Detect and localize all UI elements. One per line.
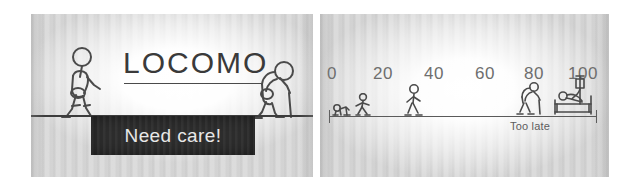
walking-child-figure	[353, 93, 373, 117]
too-late-caption: Too late	[510, 120, 550, 132]
walking-adult-figure	[53, 46, 109, 122]
axis-tick-label-80: 80	[524, 64, 544, 84]
walking-adult-figure	[402, 84, 426, 117]
life-course-timeline-panel: 0 20 40 60 80 100	[320, 14, 609, 177]
stooped-elder-with-cane-figure	[515, 82, 545, 117]
locomo-awareness-panel: LOCOMO Need care!	[31, 14, 313, 177]
axis-tick-label-20: 20	[373, 64, 393, 84]
crawling-baby-figure	[332, 102, 352, 117]
axis-tick-label-40: 40	[424, 64, 444, 84]
age-axis-line	[329, 116, 597, 117]
need-care-label: Need care!	[91, 116, 255, 155]
axis-end-tick	[596, 110, 597, 123]
axis-tick-label-60: 60	[475, 64, 495, 84]
need-care-banner: Need care!	[91, 116, 255, 155]
title-underline	[124, 83, 261, 84]
axis-tick-label-0: 0	[327, 64, 337, 84]
axis-start-tick	[329, 110, 330, 123]
stooped-elder-with-cane-figure	[242, 58, 304, 122]
bedridden-patient-with-iv-figure	[550, 74, 598, 117]
